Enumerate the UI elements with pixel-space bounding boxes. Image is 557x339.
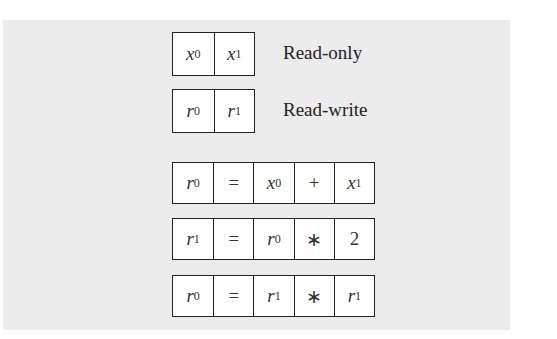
read-only-legend-box: x0x1 [172,32,255,76]
instruction-row: r0=x0+x1 [172,162,375,204]
read-only-label: Read-only [283,42,362,64]
variable-cell: r0 [173,163,213,203]
read-write-legend-box: r0r1 [172,89,255,133]
variable-cell: r1 [173,219,213,259]
read-write-label: Read-write [283,99,367,121]
variable-cell: r0 [173,276,213,316]
operator-cell: ∗ [294,219,334,259]
variable-cell: x1 [214,33,255,75]
operator-cell: = [213,219,253,259]
variable-cell: x1 [334,163,374,203]
operator-cell: + [294,163,334,203]
instruction-row: r0=r1∗r1 [172,275,375,317]
variable-cell: r0 [173,90,214,132]
variable-cell: x0 [253,163,293,203]
variable-cell: x0 [173,33,214,75]
variable-cell: r1 [334,276,374,316]
operator-cell: 2 [334,219,374,259]
variable-cell: r1 [214,90,255,132]
variable-cell: r0 [253,219,293,259]
operator-cell: = [213,163,253,203]
operator-cell: ∗ [294,276,334,316]
operator-cell: = [213,276,253,316]
instruction-row: r1=r0∗2 [172,218,375,260]
variable-cell: r1 [253,276,293,316]
